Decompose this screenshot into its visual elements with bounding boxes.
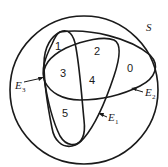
- universe-label: S: [146, 21, 152, 33]
- venn-diagram: 1 2 3 4 0 5 S E 3 E 2 E 1: [0, 0, 168, 167]
- region-label-1: 1: [55, 40, 61, 52]
- e3-label: E: [14, 79, 22, 91]
- region-label-5: 5: [62, 107, 68, 119]
- region-label-2: 2: [94, 45, 100, 57]
- e1-subscript: 1: [115, 118, 119, 126]
- e3-arrowhead-icon: [38, 77, 44, 81]
- e1-label: E: [107, 111, 115, 123]
- region-label-3: 3: [60, 67, 66, 79]
- region-label-4: 4: [89, 74, 95, 86]
- e2-label: E: [144, 86, 152, 98]
- e3-subscript: 3: [22, 86, 26, 94]
- region-label-0: 0: [127, 62, 133, 74]
- e2-subscript: 2: [152, 93, 156, 101]
